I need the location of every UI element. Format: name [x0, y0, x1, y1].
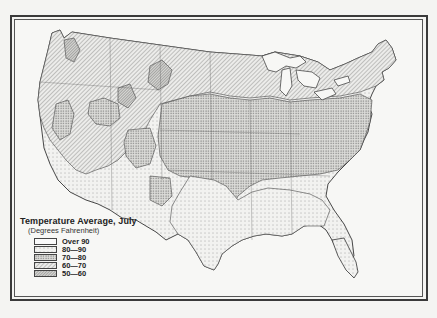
- swatch-sparse-dots-icon: [34, 246, 57, 253]
- legend-title: Temperature Average, July: [20, 216, 137, 226]
- swatch-hatch-icon: [34, 262, 57, 269]
- swatch-dense-hatch-icon: [34, 270, 57, 277]
- swatch-dense-dots-icon: [34, 254, 57, 261]
- legend-subtitle: (Degrees Fahrenheit): [28, 226, 137, 235]
- legend-item-50-60: 50—60: [34, 269, 137, 277]
- florida: [332, 238, 358, 278]
- swatch-blank-icon: [34, 238, 57, 245]
- legend: Temperature Average, July (Degrees Fahre…: [20, 216, 137, 277]
